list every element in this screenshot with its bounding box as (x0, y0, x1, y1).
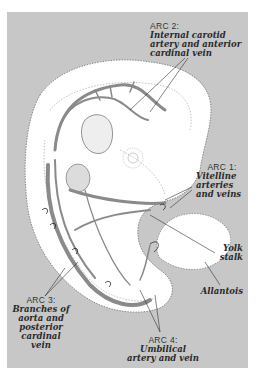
label-arc3: ARC 3: Branches of aorta and posterior c… (8, 296, 74, 350)
label-arc4: ARC 4: Umbilical artery and vein (120, 336, 206, 363)
heart (81, 115, 112, 154)
arc3-desc-line: vein (8, 341, 74, 350)
yolk-stalk-desc-line: stalk (205, 253, 243, 262)
arc2-desc-line: cardinal vein (150, 49, 242, 58)
allantois-desc-line: Allantois (195, 287, 243, 296)
arc4-desc-line: artery and vein (120, 354, 206, 363)
label-yolk-stalk: Yolk stalk (205, 244, 243, 262)
label-allantois: Allantois (195, 287, 243, 296)
label-arc1: ARC 1: Vitelline arteries and veins (196, 163, 248, 199)
label-arc2: ARC 2: Internal carotid artery and anter… (150, 22, 242, 58)
liver-network (66, 164, 90, 192)
arc1-desc-line: and veins (196, 190, 248, 199)
